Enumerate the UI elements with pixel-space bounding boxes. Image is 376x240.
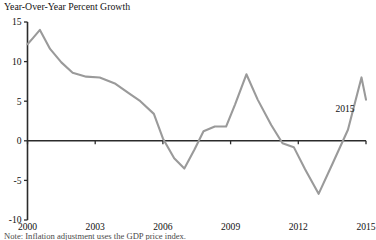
y-tick-label: 10 xyxy=(12,56,22,67)
x-axis-tick-labels: 200020032006200920122015 xyxy=(18,221,376,232)
x-tick-label: 2009 xyxy=(221,221,240,232)
x-tick-label: 2006 xyxy=(153,221,172,232)
y-tick-label: -5 xyxy=(14,175,22,186)
x-tick-label: 2015 xyxy=(356,221,375,232)
x-tick-label: 2012 xyxy=(289,221,308,232)
line-chart: 151050-5-10 200020032006200920122015 201… xyxy=(0,0,376,240)
x-tick-label: 2000 xyxy=(18,221,37,232)
x-tick-label: 2003 xyxy=(86,221,105,232)
figure-container: Figure 2. Real Gross Domestic Product Ye… xyxy=(0,0,376,240)
figure-note: Note: Inflation adjustment uses the GDP … xyxy=(4,232,186,240)
y-tick-label: 0 xyxy=(17,135,22,146)
data-series-line xyxy=(28,30,367,194)
y-tick-label: 5 xyxy=(17,96,22,107)
note-block: Note: Inflation adjustment uses the GDP … xyxy=(4,232,372,240)
y-tick-label: 15 xyxy=(12,16,22,27)
chart-annotations: 2015 xyxy=(335,103,354,114)
endpoint-year-label: 2015 xyxy=(335,103,354,114)
y-axis-tick-labels: 151050-5-10 xyxy=(9,16,22,225)
